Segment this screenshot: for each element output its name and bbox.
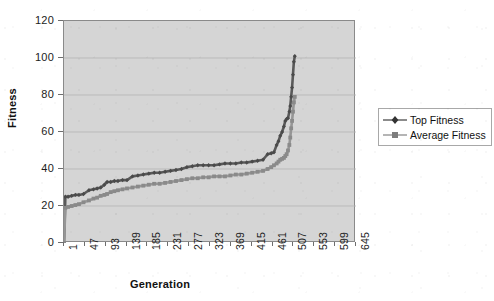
x-tick-label: 645 <box>359 232 371 250</box>
x-axis-ticks: 1479313918523127732336941546150755359964… <box>63 242 355 297</box>
y-tick-label: 0 <box>48 236 54 248</box>
series-top-fitness <box>64 54 297 243</box>
x-tick-mark <box>334 242 335 246</box>
x-tick-label: 599 <box>338 232 350 250</box>
x-tick-label: 323 <box>213 232 225 250</box>
y-tick-label: 120 <box>35 14 54 26</box>
x-tick-label: 461 <box>276 232 288 250</box>
x-tick-label: 185 <box>150 232 162 250</box>
x-tick-mark <box>272 242 273 246</box>
x-tick-mark <box>167 242 168 246</box>
x-tick-mark <box>105 242 106 246</box>
x-tick-mark <box>292 242 293 246</box>
x-tick-label: 415 <box>255 232 267 250</box>
x-tick-label: 553 <box>317 232 329 250</box>
x-tick-mark <box>126 242 127 246</box>
legend-item-average-fitness: Average Fitness <box>382 127 486 142</box>
x-tick-mark <box>355 242 356 246</box>
plot-area <box>63 20 355 242</box>
x-tick-mark <box>313 242 314 246</box>
y-tick-label: 100 <box>35 51 54 63</box>
y-axis-ticks: 020406080100120 <box>0 0 63 262</box>
x-tick-mark <box>251 242 252 246</box>
legend-label: Top Fitness <box>408 114 464 126</box>
legend-label: Average Fitness <box>408 129 486 141</box>
x-tick-label: 93 <box>109 238 121 250</box>
x-tick-mark <box>230 242 231 246</box>
diamond-marker-icon <box>382 113 408 127</box>
x-tick-label: 1 <box>67 244 79 250</box>
y-tick-label: 80 <box>41 88 54 100</box>
x-tick-mark <box>188 242 189 246</box>
chart-figure: Fitness 020406080100120 1479313918523127… <box>0 0 494 301</box>
chart-legend: Top Fitness Average Fitness <box>378 108 492 146</box>
x-tick-label: 47 <box>88 238 100 250</box>
plot-canvas <box>64 21 356 243</box>
x-tick-mark <box>63 242 64 246</box>
x-tick-label: 277 <box>192 232 204 250</box>
x-tick-label: 139 <box>130 232 142 250</box>
x-tick-label: 369 <box>234 232 246 250</box>
y-tick-label: 60 <box>41 125 54 137</box>
x-tick-label: 507 <box>296 232 308 250</box>
x-tick-mark <box>209 242 210 246</box>
legend-item-top-fitness: Top Fitness <box>382 112 486 127</box>
x-tick-label: 231 <box>171 232 183 250</box>
x-tick-mark <box>84 242 85 246</box>
square-marker-icon <box>382 128 408 142</box>
y-tick-label: 20 <box>41 199 54 211</box>
x-axis-title: Generation <box>130 278 190 290</box>
x-tick-mark <box>146 242 147 246</box>
y-tick-label: 40 <box>41 162 54 174</box>
